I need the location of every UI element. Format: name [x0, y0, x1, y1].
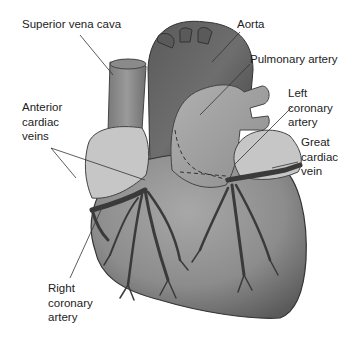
label-pulmonary-artery: Pulmonary artery — [250, 52, 338, 67]
superior-vena-cava-shape — [108, 59, 146, 132]
label-superior-vena-cava: Superior vena cava — [22, 17, 121, 32]
heart-diagram: Superior vena cava Aorta Pulmonary arter… — [0, 0, 356, 354]
label-left-coronary-artery: Left coronary artery — [288, 86, 333, 130]
label-aorta: Aorta — [237, 17, 265, 32]
label-right-coronary-artery: Right coronary artery — [48, 281, 93, 325]
label-anterior-cardiac-veins: Anterior cardiac veins — [22, 100, 62, 144]
label-great-cardiac-vein: Great cardiac vein — [301, 135, 338, 179]
